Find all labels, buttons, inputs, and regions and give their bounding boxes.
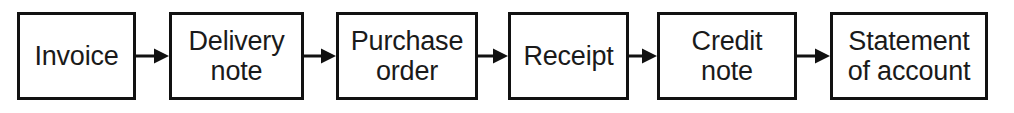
arrow-right-icon xyxy=(629,45,657,67)
arrow-right-icon xyxy=(136,45,169,67)
flow-node-label: Delivery note xyxy=(185,26,289,86)
arrow-right-icon xyxy=(304,45,336,67)
arrow-right-icon xyxy=(797,45,830,67)
flow-node-delivery-note: Delivery note xyxy=(169,12,304,100)
flow-node-label: Purchase order xyxy=(347,26,467,86)
flow-node-label: Credit note xyxy=(688,26,767,86)
flow-node-label: Receipt xyxy=(519,41,617,71)
flow-node-receipt: Receipt xyxy=(508,12,629,100)
flow-node-purchase-order: Purchase order xyxy=(336,12,478,100)
flow-node-label: Statement of account xyxy=(844,26,975,86)
arrow-right-icon xyxy=(478,45,508,67)
flowchart-diagram: Invoice Delivery note Purchase order Rec… xyxy=(0,0,1014,113)
flow-node-label: Invoice xyxy=(30,41,122,71)
flow-node-invoice: Invoice xyxy=(17,12,136,100)
flow-node-statement-of-account: Statement of account xyxy=(830,12,988,100)
flow-node-credit-note: Credit note xyxy=(657,12,797,100)
